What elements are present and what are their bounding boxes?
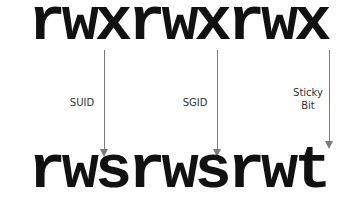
special-permissions: rwsrwsrwt [0,140,356,202]
sticky-bit-label: Sticky Bit [290,86,326,112]
suid-label: SUID [66,96,98,109]
sticky-bit-label-line1: Sticky [290,86,326,99]
sticky-bit-label-line2: Bit [290,99,326,112]
permission-diagram: rwxrwxrwx SUID SGID Sticky Bit rwsrwsrwt [0,0,356,207]
sticky-bit-arrow [329,50,330,142]
sgid-label: SGID [178,96,212,109]
original-permissions: rwxrwxrwx [0,0,356,54]
